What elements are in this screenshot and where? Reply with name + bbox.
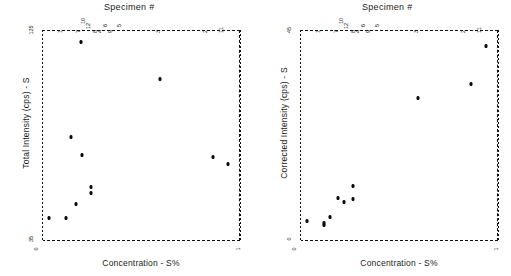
specimen-tick-label: 11 [476, 27, 482, 33]
plot-area [300, 30, 498, 241]
data-point [64, 216, 67, 220]
y-axis-label: Total Intensity (cps) - S [21, 48, 31, 198]
y-tick-max: 45 [286, 21, 292, 39]
right-axis-spine [240, 30, 241, 241]
specimen-tick-label: 11 [218, 27, 224, 33]
chart-panel-right: 171012846953211Specimen #Corrected Inten… [258, 0, 507, 276]
specimen-tick-label: 2 [202, 30, 208, 33]
x-axis-label: Concentration - S% [300, 258, 498, 268]
specimen-tick-label: 6 [360, 24, 366, 27]
specimen-tick-label: 9 [365, 30, 371, 33]
specimen-tick-label: 4 [97, 30, 103, 33]
y-axis-label: Corrected Intensity (cps) - S [279, 48, 289, 198]
top-axis-title: Specimen # [362, 2, 413, 12]
specimen-tick-label: 3 [413, 30, 419, 33]
specimen-tick-label: 5 [374, 24, 380, 27]
data-point [69, 135, 72, 139]
data-point [79, 40, 82, 44]
specimen-tick-label: 7 [333, 30, 339, 33]
data-point [342, 200, 345, 204]
specimen-tick-label: 9 [107, 30, 113, 33]
y-axis-spine [42, 30, 43, 241]
x-tick-min: 0 [291, 241, 297, 257]
x-tick-max: 1 [493, 241, 499, 257]
data-point [470, 82, 473, 86]
data-point [416, 96, 419, 100]
y-tick-max: 125 [28, 21, 34, 39]
specimen-tick-label: 1 [57, 30, 63, 33]
data-point [322, 221, 325, 225]
specimen-tick-label: 7 [75, 30, 81, 33]
data-point [47, 216, 50, 220]
data-point [80, 153, 83, 157]
data-point [89, 185, 92, 189]
specimen-tick-label: 6 [102, 24, 108, 27]
data-point [212, 155, 215, 159]
data-point [336, 196, 339, 200]
x-axis-label: Concentration - S% [42, 258, 240, 268]
data-point [158, 77, 161, 81]
specimen-tick-label: 4 [355, 30, 361, 33]
specimen-tick-label: 12 [85, 23, 91, 29]
y-axis-spine [300, 30, 301, 241]
specimen-tick-label: 5 [116, 24, 122, 27]
x-tick-min: 0 [33, 241, 39, 257]
data-point [328, 215, 331, 219]
x-tick-max: 1 [235, 241, 241, 257]
data-point [351, 184, 354, 188]
data-point [227, 162, 230, 166]
data-point [89, 191, 92, 195]
top-axis-title: Specimen # [104, 2, 155, 12]
specimen-tick-label: 1 [315, 30, 321, 33]
specimen-tick-label: 3 [155, 30, 161, 33]
specimen-tick-label: 2 [460, 30, 466, 33]
data-point [74, 202, 77, 206]
specimen-tick-label: 12 [343, 23, 349, 29]
chart-panel-left: 171012846953211Specimen #Total Intensity… [0, 0, 249, 276]
data-point [485, 44, 488, 48]
figure-container: 171012846953211Specimen #Total Intensity… [0, 0, 511, 276]
right-axis-spine [498, 30, 499, 241]
data-point [305, 219, 308, 223]
data-point [351, 197, 354, 201]
